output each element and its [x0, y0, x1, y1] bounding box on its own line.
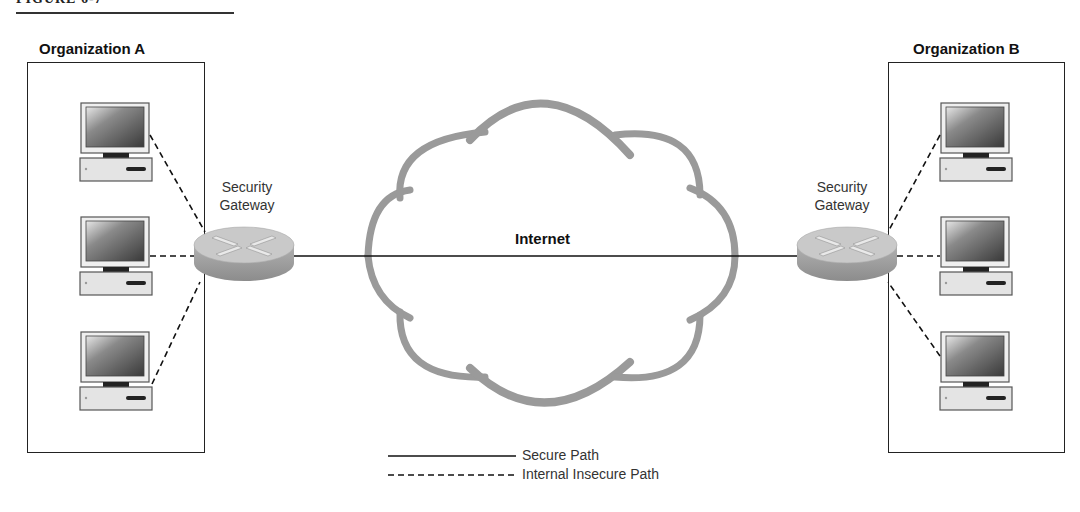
security-gateway-a-icon: [194, 227, 294, 281]
computer-icon: [80, 103, 152, 181]
gateway-b-label: Security Gateway: [792, 178, 892, 214]
legend-secure-path: Secure Path: [522, 447, 599, 463]
gateway-b-label-line2: Gateway: [792, 196, 892, 214]
computer-icon: [80, 332, 152, 410]
internet-cloud-icon: [368, 103, 735, 402]
gateway-b-label-line1: Security: [792, 178, 892, 196]
network-diagram: [0, 0, 1080, 512]
gateway-a-label-line2: Gateway: [197, 196, 297, 214]
computer-icon: [940, 103, 1012, 181]
gateway-a-label-line1: Security: [197, 178, 297, 196]
gateway-a-label: Security Gateway: [197, 178, 297, 214]
internet-label: Internet: [515, 230, 570, 247]
security-gateway-b-icon: [797, 227, 897, 281]
computer-icon: [940, 217, 1012, 295]
computer-icon: [80, 217, 152, 295]
legend-insecure-path: Internal Insecure Path: [522, 466, 659, 482]
computer-icon: [940, 332, 1012, 410]
